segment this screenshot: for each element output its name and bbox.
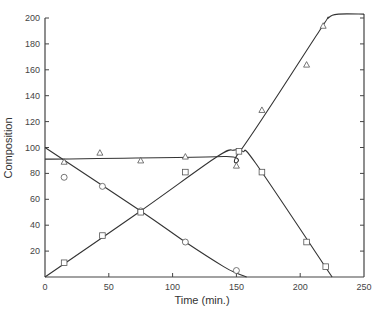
x-tick-label: 0 [42,282,47,292]
circles-curve [45,148,247,278]
x-tick-label: 200 [293,282,308,292]
x-axis-label: Time (min.) [174,294,229,306]
triangle-marker [259,107,265,113]
x-tick-label: 150 [229,282,244,292]
square-marker [304,239,310,245]
y-tick-label: 80 [30,168,40,178]
square-marker [61,260,67,266]
x-tick-label: 50 [104,282,114,292]
y-tick-label: 20 [30,246,40,256]
triangle-marker [320,23,326,29]
curves [45,14,364,277]
triangle-marker [182,154,188,160]
square-marker [259,169,265,175]
y-axis-label: Composition [2,117,14,178]
y-tick-label: 60 [30,194,40,204]
triangle-marker [233,163,239,169]
markers [61,23,328,274]
y-tick-label: 180 [25,39,40,49]
y-tick-label: 100 [25,143,40,153]
triangle-marker [97,150,103,156]
square-marker [183,169,189,175]
y-tick-label: 40 [30,220,40,230]
triangle-marker [304,62,310,68]
x-tick-label: 250 [356,282,371,292]
y-tick-label: 160 [25,65,40,75]
square-marker [100,233,106,239]
square-marker [236,149,242,155]
triangles-curve [45,14,364,163]
y-tick-label: 120 [25,117,40,127]
square-marker [138,209,144,215]
square-marker [323,264,329,270]
x-tick-label: 100 [165,282,180,292]
circle-marker [233,268,239,274]
y-tick-label: 140 [25,91,40,101]
circle-marker [99,183,105,189]
y-tick-label: 200 [25,13,40,23]
chart: 2040608010012014016018020005010015020025… [0,0,381,312]
squares-curve [45,150,332,277]
circle-marker [61,174,67,180]
circle-marker [182,239,188,245]
